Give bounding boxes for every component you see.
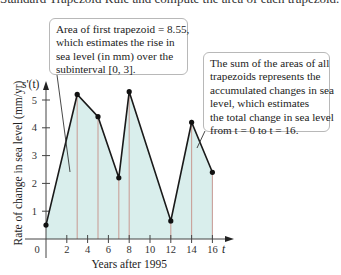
y-axis-arrow-icon — [43, 81, 49, 90]
y-tick-label: 3 — [32, 150, 37, 161]
data-point — [95, 114, 100, 119]
callout-line: trapezoids represents the — [210, 70, 323, 83]
callout-line: which estimates the rise in — [56, 36, 181, 49]
sum-of-areas-callout: The sum of the areas of all trapezoids r… — [203, 52, 330, 132]
data-point — [210, 170, 215, 175]
y-axis-label: Rate of change in sea level (mm/yr) — [12, 80, 25, 245]
x-axis-arrow-icon — [225, 236, 234, 242]
data-point — [43, 223, 48, 228]
callout-line: The sum of the areas of all — [210, 57, 323, 70]
data-point — [127, 89, 132, 94]
callout-line: from t = 0 to t = 16. — [210, 124, 323, 137]
data-point — [168, 218, 173, 223]
callout-line: accumulated changes in sea — [210, 84, 323, 97]
data-point — [116, 175, 121, 180]
x-tick-label: 2 — [64, 244, 69, 255]
first-trapezoid-callout: Area of first trapezoid = 8.55, which es… — [49, 18, 188, 75]
callout-line: sea level (in mm) over the — [56, 50, 181, 63]
y-tick-label: 4 — [32, 122, 38, 133]
data-point — [75, 92, 80, 97]
callout-line: level, which estimates — [210, 97, 323, 110]
x-tick-label: 4 — [85, 244, 91, 255]
y-tick-label: 1 — [32, 206, 37, 217]
y-axis-name: s'(t) — [22, 78, 40, 91]
x-tick-label: 16 — [207, 244, 218, 255]
x-tick-label: 10 — [145, 244, 156, 255]
callout-line: Area of first trapezoid = 8.55, — [56, 23, 181, 36]
y-tick-label: 5 — [32, 95, 37, 106]
x-tick-label: 0 — [34, 244, 39, 255]
x-tick-label: 14 — [186, 244, 197, 255]
y-tick-label: 2 — [32, 178, 37, 189]
x-axis-label: Years after 1995 — [91, 258, 167, 270]
x-tick-label: 6 — [106, 244, 111, 255]
data-point — [189, 120, 194, 125]
callout-line: subinterval [0, 3]. — [56, 63, 181, 76]
x-axis-name: t — [222, 243, 226, 255]
x-tick-label: 8 — [127, 244, 132, 255]
callout-line: the total change in sea level — [210, 111, 323, 124]
x-tick-label: 12 — [166, 244, 177, 255]
